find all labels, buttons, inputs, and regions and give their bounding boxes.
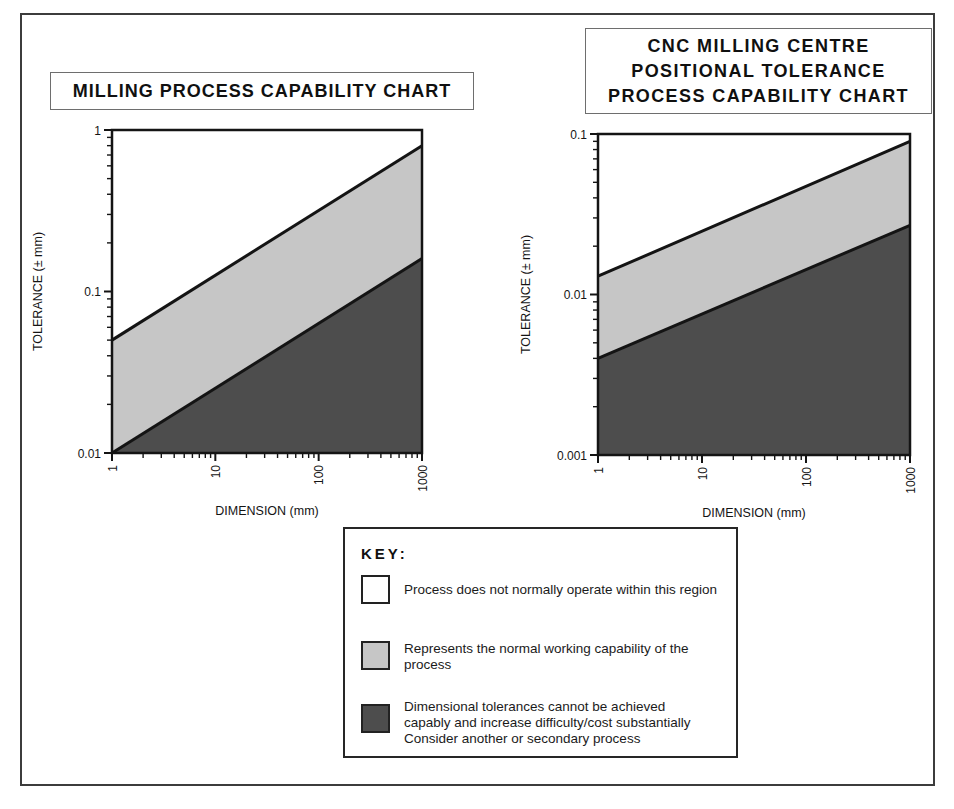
figure-page: MILLING PROCESS CAPABILITY CHART CNC MIL…	[0, 0, 954, 809]
key-item-label: Dimensional tolerances cannot be achieve…	[404, 699, 690, 747]
x-tick-label: 1	[592, 467, 606, 474]
cnc-chart-title-box: CNC MILLING CENTRE POSITIONAL TOLERANCE …	[585, 28, 932, 114]
key-label-line: Dimensional tolerances cannot be achieve…	[404, 699, 690, 715]
key-label-line: process	[404, 657, 688, 673]
x-tick-label: 10	[696, 467, 710, 481]
key-item-difficult-region: Dimensional tolerances cannot be achieve…	[361, 699, 690, 747]
y-tick-label: 0.1	[84, 285, 101, 299]
milling-chart-title: MILLING PROCESS CAPABILITY CHART	[51, 81, 473, 102]
y-tick-label: 0.1	[570, 128, 587, 142]
x-tick-label: 1000	[416, 465, 430, 492]
x-tick-label: 10	[209, 465, 223, 479]
x-tick-label: 100	[800, 467, 814, 487]
y-tick-label: 1	[94, 124, 101, 138]
cnc-positional-tolerance-chart: 11010010000.10.010.001DIMENSION (mm)TOLE…	[514, 122, 920, 542]
key-item-white-region: Process does not normally operate within…	[361, 575, 717, 604]
key-swatch-normal-region	[361, 641, 390, 670]
y-tick-label: 0.01	[564, 288, 588, 302]
x-axis-title: DIMENSION (mm)	[702, 506, 805, 520]
y-tick-label: 0.01	[78, 447, 102, 461]
key-label-line: capably and increase difficulty/cost sub…	[404, 715, 690, 731]
key-swatch-white-region	[361, 575, 390, 604]
key-item-normal-region: Represents the normal working capability…	[361, 641, 688, 673]
key-label-line: Consider another or secondary process	[404, 731, 690, 747]
key-label-line: Process does not normally operate within…	[404, 582, 717, 598]
key-item-label: Represents the normal working capability…	[404, 641, 688, 673]
x-tick-label: 1	[106, 465, 120, 472]
y-tick-label: 0.001	[557, 449, 587, 463]
cnc-chart-title-line-2: POSITIONAL TOLERANCE	[586, 59, 931, 84]
key-swatch-difficult-region	[361, 704, 390, 733]
x-axis-title: DIMENSION (mm)	[215, 504, 318, 518]
cnc-chart-title-line-1: CNC MILLING CENTRE	[586, 34, 931, 59]
milling-chart-title-box: MILLING PROCESS CAPABILITY CHART	[50, 72, 474, 110]
x-tick-label: 100	[312, 465, 326, 485]
milling-capability-chart: 110100100010.10.01DIMENSION (mm)TOLERANC…	[28, 122, 432, 542]
y-axis-title: TOLERANCE (± mm)	[31, 232, 45, 351]
x-tick-label: 1000	[904, 467, 918, 494]
y-axis-title: TOLERANCE (± mm)	[519, 235, 533, 354]
key-box: KEY: Process does not normally operate w…	[343, 527, 738, 758]
key-heading: KEY:	[361, 545, 408, 562]
key-item-label: Process does not normally operate within…	[404, 582, 717, 598]
key-label-line: Represents the normal working capability…	[404, 641, 688, 657]
cnc-chart-title-line-3: PROCESS CAPABILITY CHART	[586, 84, 931, 109]
